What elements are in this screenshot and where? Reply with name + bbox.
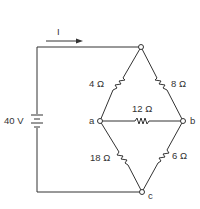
current-label: I [57,26,60,37]
resistor-12-ohm [100,118,183,124]
current-arrow [46,39,83,44]
circuit-diagram: I 40 V 4 Ω 8 Ω 12 Ω 18 Ω [0,0,200,209]
node-top [139,45,144,50]
resistor-4-label: 4 Ω [89,78,104,89]
node-a [98,119,103,124]
battery-icon [31,115,43,127]
resistor-8-label: 8 Ω [171,78,186,89]
resistor-18-label: 18 Ω [90,152,110,163]
node-a-label: a [89,115,95,126]
node-b-label: b [190,115,195,126]
node-c-label: c [148,190,153,201]
resistor-6-label: 6 Ω [172,150,187,161]
node-b [181,119,186,124]
node-c [140,190,145,195]
source-label: 40 V [4,115,24,126]
resistor-12-label: 12 Ω [132,103,152,114]
